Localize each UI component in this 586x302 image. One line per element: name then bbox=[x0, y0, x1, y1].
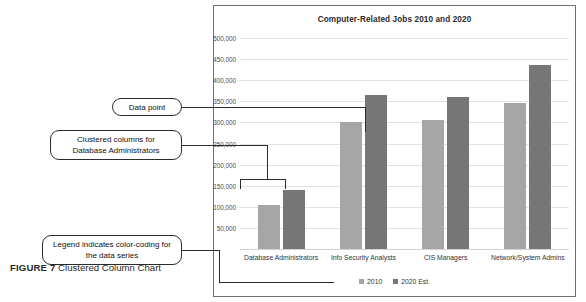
axis-baseline bbox=[240, 249, 569, 250]
bar-2020-est-[interactable] bbox=[447, 97, 469, 249]
bar-cluster: Info Security Analysts bbox=[322, 38, 404, 249]
y-axis-tick-label: 100,000 bbox=[213, 203, 236, 210]
leader-line-data-point-drop bbox=[365, 107, 366, 132]
bar-cluster: CIS Managers bbox=[405, 38, 487, 249]
chart-title: Computer-Related Jobs 2010 and 2020 bbox=[214, 15, 575, 24]
leader-line-legend-run bbox=[219, 282, 334, 283]
y-axis-tick-label: 200,000 bbox=[213, 161, 236, 168]
leader-line-data-point bbox=[182, 107, 366, 108]
bracket-left-tick bbox=[240, 179, 241, 189]
bar-2020-est-[interactable] bbox=[283, 190, 305, 249]
bar-clusters: Database AdministratorsInfo Security Ana… bbox=[240, 38, 569, 249]
leader-line-clustered bbox=[182, 145, 268, 146]
callout-legend: Legend indicates color-coding for the da… bbox=[42, 235, 182, 265]
callout-data-point: Data point bbox=[112, 98, 182, 116]
bar-2010[interactable] bbox=[340, 122, 362, 249]
bar-2010[interactable] bbox=[258, 205, 280, 249]
y-axis-tick-label: 250,000 bbox=[213, 140, 236, 147]
bracket-top bbox=[240, 179, 286, 180]
leader-line-legend-drop bbox=[219, 250, 220, 283]
bar-2010[interactable] bbox=[504, 103, 526, 249]
bar-2010[interactable] bbox=[422, 120, 444, 249]
y-axis-tick-label: 400,000 bbox=[213, 77, 236, 84]
bar-cluster: Database Administrators bbox=[240, 38, 322, 249]
y-axis-tick-label: 300,000 bbox=[213, 119, 236, 126]
legend-item[interactable]: 2010 bbox=[359, 278, 382, 285]
legend-swatch-icon bbox=[359, 279, 364, 284]
legend-label: 2020 Est. bbox=[401, 278, 430, 285]
legend-swatch-icon bbox=[393, 279, 398, 284]
bar-2020-est-[interactable] bbox=[529, 65, 551, 249]
leader-line-legend bbox=[182, 250, 220, 251]
x-axis-category-label: Network/System Admins bbox=[477, 253, 579, 263]
plot-area: 500,000450,000400,000350,000300,000250,0… bbox=[240, 38, 569, 249]
y-axis-tick-label: 450,000 bbox=[213, 56, 236, 63]
bar-2020-est-[interactable] bbox=[365, 95, 387, 249]
bar-cluster: Network/System Admins bbox=[487, 38, 569, 249]
callout-clustered-columns: Clustered columns for Database Administr… bbox=[50, 130, 182, 160]
y-axis-tick-label: 500,000 bbox=[213, 35, 236, 42]
y-axis-tick-label: 50,000 bbox=[217, 224, 236, 231]
legend-label: 2010 bbox=[367, 278, 382, 285]
legend-item[interactable]: 2020 Est. bbox=[393, 278, 430, 285]
leader-line-clustered-drop bbox=[267, 145, 268, 180]
y-axis-tick-label: 150,000 bbox=[213, 182, 236, 189]
y-axis-tick-label: 350,000 bbox=[213, 98, 236, 105]
bracket-right-tick bbox=[285, 179, 286, 189]
